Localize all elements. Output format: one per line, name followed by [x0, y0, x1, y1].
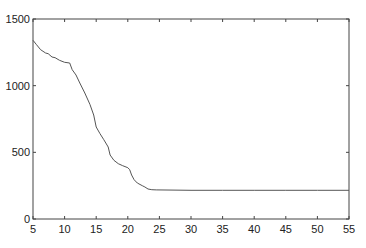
x-tick-label: 55	[343, 223, 355, 235]
y-tick-label: 0	[24, 213, 30, 225]
x-tick-label: 20	[122, 223, 134, 235]
x-tick-label: 50	[311, 223, 323, 235]
x-tick-label: 35	[216, 223, 228, 235]
y-tick-label: 1500	[6, 13, 30, 25]
x-tick-label: 10	[58, 223, 70, 235]
y-tick-label: 500	[12, 146, 30, 158]
plot-area	[33, 19, 349, 219]
x-tick-label: 45	[280, 223, 292, 235]
line-chart: 510152025303540455055 050010001500	[0, 0, 366, 248]
x-tick-label: 40	[248, 223, 260, 235]
x-tick-label: 15	[90, 223, 102, 235]
x-tick-label: 5	[30, 223, 36, 235]
y-tick-label: 1000	[6, 80, 30, 92]
x-tick-label: 30	[185, 223, 197, 235]
plot-border	[33, 19, 349, 219]
x-tick-label: 25	[153, 223, 165, 235]
